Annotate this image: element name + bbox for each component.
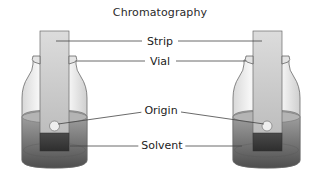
label-origin: Origin [141, 105, 180, 117]
left-vial [22, 31, 87, 168]
chromatography-illustration [0, 0, 320, 192]
label-solvent: Solvent [138, 140, 185, 152]
right-vial [233, 31, 300, 168]
label-strip: Strip [144, 36, 176, 48]
label-vial: Vial [147, 56, 173, 68]
